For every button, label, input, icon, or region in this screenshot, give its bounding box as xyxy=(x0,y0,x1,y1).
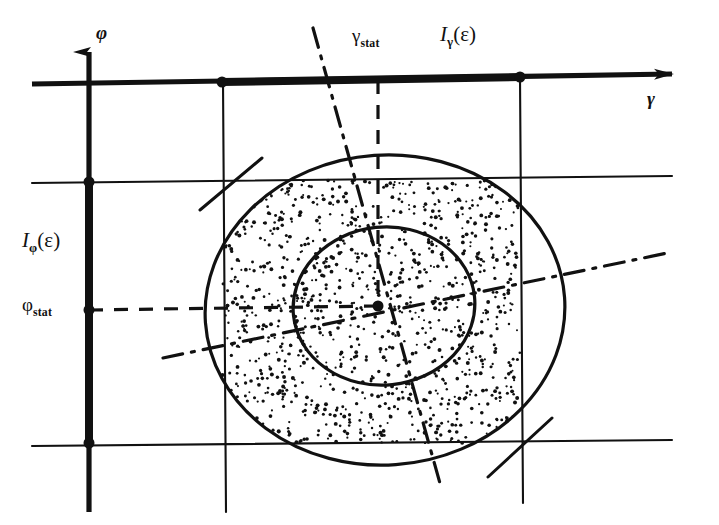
stipple-dot xyxy=(436,427,439,430)
stipple-dot xyxy=(281,188,283,190)
stipple-dot xyxy=(351,371,354,374)
stipple-dot xyxy=(324,265,328,269)
stipple-dot xyxy=(417,429,420,432)
stipple-dot xyxy=(459,423,462,426)
stipple-dot xyxy=(512,375,516,379)
stipple-dot xyxy=(385,183,389,187)
stipple-dot xyxy=(334,422,338,426)
stipple-dot xyxy=(356,260,358,262)
stipple-dot xyxy=(450,423,454,427)
stipple-dot xyxy=(322,334,324,336)
stipple-dot xyxy=(338,185,342,189)
stipple-dot xyxy=(228,197,231,200)
stipple-dot xyxy=(404,374,408,378)
stipple-dot xyxy=(496,327,499,330)
stipple-dot xyxy=(478,403,480,405)
stipple-dot xyxy=(297,354,299,356)
stipple-dot xyxy=(328,299,331,302)
stipple-dot xyxy=(483,260,485,262)
stipple-dot xyxy=(255,289,258,292)
stipple-dot xyxy=(230,280,233,283)
stipple-dot xyxy=(262,271,264,273)
stipple-dot xyxy=(496,316,499,319)
stipple-dot xyxy=(276,351,278,353)
distribution-contours xyxy=(195,143,576,477)
stipple-dot xyxy=(409,438,411,440)
interval-phi-arg: (ε) xyxy=(37,228,60,252)
stipple-dot xyxy=(256,325,260,329)
stipple-dot xyxy=(291,221,293,223)
stipple-dot xyxy=(316,197,318,199)
stipple-dot xyxy=(503,256,506,259)
stipple-dot xyxy=(424,202,428,206)
stipple-dot xyxy=(499,400,501,402)
phi-stat-label: φstat xyxy=(22,294,52,320)
stipple-dot xyxy=(459,199,461,201)
stipple-dot xyxy=(410,181,413,184)
stipple-dot xyxy=(403,340,405,342)
stipple-dot xyxy=(324,377,326,379)
stipple-dot xyxy=(283,213,285,215)
stipple-dot xyxy=(278,276,281,279)
stipple-dot xyxy=(368,422,370,424)
stipple-dot xyxy=(228,310,230,312)
stipple-dot xyxy=(495,291,498,294)
stipple-dot xyxy=(425,271,428,274)
stat-leader-lines xyxy=(89,80,378,310)
stipple-dot xyxy=(259,265,262,268)
stipple-dot xyxy=(338,279,341,282)
stipple-dot xyxy=(302,438,305,441)
stipple-dot xyxy=(259,237,262,240)
stipple-dot xyxy=(228,244,232,248)
stipple-dot xyxy=(280,309,283,312)
stipple-dot xyxy=(515,255,519,259)
stipple-dot xyxy=(348,418,351,421)
stipple-dot xyxy=(339,359,341,361)
stipple-dot xyxy=(368,264,371,267)
stipple-dot xyxy=(226,289,229,292)
stipple-dot xyxy=(229,247,233,251)
stipple-dot xyxy=(505,385,507,387)
stipple-dot xyxy=(270,372,274,376)
stipple-dot xyxy=(506,262,510,266)
stipple-dot xyxy=(509,364,512,367)
stipple-dot xyxy=(341,214,343,216)
gamma-stat-label: γstat xyxy=(352,25,380,51)
stipple-dot xyxy=(297,258,300,261)
stipple-dot xyxy=(277,299,279,301)
stipple-dot xyxy=(261,377,265,381)
stipple-dot xyxy=(482,312,484,314)
stipple-dot xyxy=(277,358,281,362)
stipple-dot xyxy=(283,392,286,395)
phi-lower-bound-line xyxy=(32,440,672,446)
stipple-dot xyxy=(229,189,232,192)
stipple-dot xyxy=(487,195,490,198)
stipple-dot xyxy=(497,305,501,309)
stipple-dot xyxy=(326,261,328,263)
stipple-dot xyxy=(269,322,273,326)
stipple-dot xyxy=(389,415,393,419)
stipple-dot xyxy=(398,325,401,328)
stipple-dot xyxy=(329,333,332,336)
stipple-dot xyxy=(301,381,304,384)
stipple-dot xyxy=(454,424,457,427)
stipple-dot xyxy=(451,189,453,191)
stipple-dot xyxy=(474,332,478,336)
stipple-dot xyxy=(506,281,509,284)
stipple-dot xyxy=(486,300,490,304)
stipple-dot xyxy=(317,434,320,437)
stipple-dot xyxy=(252,426,255,429)
stipple-dot xyxy=(464,373,467,376)
stipple-dot xyxy=(266,391,269,394)
stipple-dot xyxy=(355,354,359,358)
stipple-dot xyxy=(326,373,328,375)
major-principal-axis xyxy=(163,252,672,358)
stipple-dot xyxy=(246,331,248,333)
stipple-dot xyxy=(437,393,439,395)
stipple-dot xyxy=(379,351,381,353)
stipple-dot xyxy=(423,268,426,271)
stipple-dot xyxy=(357,325,360,328)
stipple-dot xyxy=(474,234,477,237)
stipple-dot xyxy=(335,300,338,303)
stipple-dot xyxy=(325,361,327,363)
